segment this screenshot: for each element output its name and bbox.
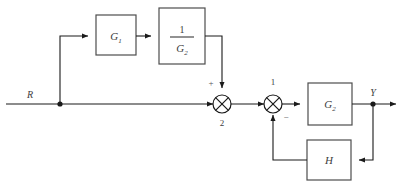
sum1-minus-sign: − xyxy=(283,112,288,122)
summing-junction-2-index: 2 xyxy=(220,118,225,128)
wire-feedback-block-to-sum1 xyxy=(273,115,307,160)
summing-junction-1-index: 1 xyxy=(271,77,276,87)
summing-junction-2 xyxy=(213,95,231,113)
inverse-plant-numerator: 1 xyxy=(180,24,185,35)
feedforward-wire-to-g1 xyxy=(60,36,88,104)
sum2-plus-sign: + xyxy=(208,78,213,88)
forward-compensator-block: G1 xyxy=(96,15,136,55)
feedback-label: H xyxy=(324,154,334,166)
plant-block: G2 xyxy=(308,83,352,125)
summing-junction-1 xyxy=(264,95,282,113)
signal-label-r: R xyxy=(26,89,33,100)
block-diagram-canvas: R G1 1 G2 + xyxy=(0,0,402,191)
feedback-block: H xyxy=(307,140,351,180)
wire-output-to-feedback-block xyxy=(359,104,373,160)
signal-label-y: Y xyxy=(370,87,377,98)
inverse-plant-block: 1 G2 xyxy=(159,8,205,64)
